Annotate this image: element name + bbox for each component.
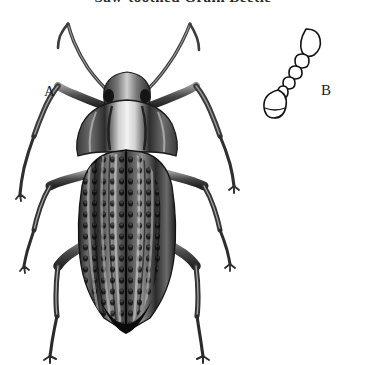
- antenna-scape: [264, 90, 286, 118]
- antenna-right: [142, 24, 199, 95]
- eye-right: [140, 89, 150, 103]
- eye-left: [104, 89, 114, 103]
- figure-b-antenna: [262, 24, 328, 122]
- figure-label-b: B: [321, 82, 331, 99]
- antenna-left: [58, 24, 112, 95]
- elytra: [78, 150, 176, 334]
- antenna-club: [301, 29, 321, 56]
- illustration-plate: Saw-toothed Grain Beetle: [0, 0, 366, 365]
- figure-a-beetle: [0, 0, 260, 365]
- figure-label-a: A: [44, 83, 55, 100]
- antenna-segments: [264, 29, 320, 118]
